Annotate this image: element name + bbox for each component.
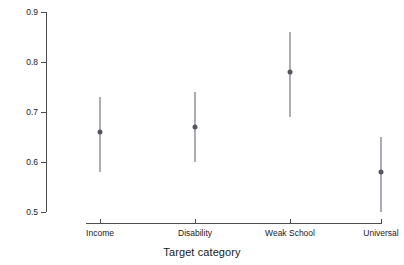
y-axis-line — [46, 12, 47, 212]
data-point-universal — [379, 170, 384, 175]
y-tick-label: 0.5 — [8, 207, 38, 217]
error-bar-universal — [381, 137, 382, 212]
data-point-weak-school — [288, 70, 293, 75]
y-tick-label: 0.7 — [8, 107, 38, 117]
x-tick-mark — [195, 219, 196, 224]
x-tick-mark — [100, 219, 101, 224]
x-tick-mark — [290, 219, 291, 224]
y-tick-mark — [41, 112, 46, 113]
data-point-disability — [193, 125, 198, 130]
x-axis-title: Target category — [0, 246, 404, 258]
y-tick-mark — [41, 162, 46, 163]
x-tick-label-income: Income — [86, 228, 114, 238]
y-tick-mark — [41, 212, 46, 213]
data-point-income — [98, 130, 103, 135]
error-bar-income — [100, 97, 101, 172]
x-tick-label-disability: Disability — [178, 228, 212, 238]
y-tick-label: 0.6 — [8, 157, 38, 167]
x-tick-label-universal: Universal — [363, 228, 398, 238]
x-tick-label-weak-school: Weak School — [265, 228, 315, 238]
x-axis-line — [86, 223, 381, 224]
x-tick-mark — [381, 219, 382, 224]
pointrange-chart: Likelihood of voting in favor of voucher… — [0, 0, 404, 265]
error-bar-weak-school — [290, 32, 291, 117]
y-tick-label: 0.9 — [8, 7, 38, 17]
y-tick-label: 0.8 — [8, 57, 38, 67]
y-tick-mark — [41, 62, 46, 63]
plot-area: 0.50.60.70.80.9 IncomeDisabilityWeak Sch… — [0, 0, 404, 265]
y-tick-mark — [41, 12, 46, 13]
